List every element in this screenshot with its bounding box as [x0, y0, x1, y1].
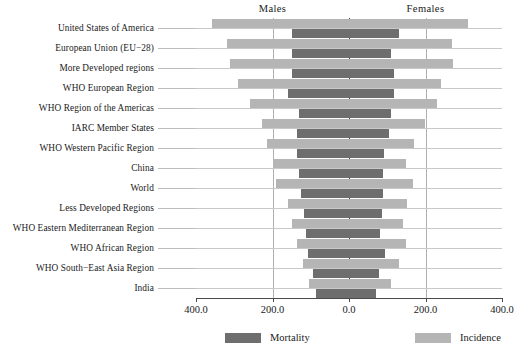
x-axis-tick-label: 400.0 — [184, 304, 208, 315]
bar-incidence-females — [349, 279, 391, 288]
bar-incidence-males — [288, 199, 349, 208]
bar-incidence-females — [349, 119, 425, 128]
label-leader-line — [158, 228, 196, 229]
bar-incidence-females — [349, 19, 468, 28]
bar-incidence-males — [292, 219, 349, 228]
bar-incidence-males — [227, 39, 349, 48]
bar-mortality-males — [304, 209, 349, 218]
category-label: Less Developed Regions — [59, 203, 154, 213]
bar-mortality-females — [349, 89, 394, 98]
bar-mortality-females — [349, 149, 384, 158]
legend-label: Incidence — [460, 332, 501, 343]
bar-mortality-males — [297, 129, 349, 138]
bar-mortality-males — [292, 29, 349, 38]
bar-mortality-females — [349, 209, 382, 218]
bar-incidence-females — [349, 259, 399, 268]
label-leader-line — [158, 128, 196, 129]
bar-mortality-males — [306, 229, 349, 238]
bar-mortality-females — [349, 109, 391, 118]
bar-mortality-females — [349, 249, 385, 258]
bar-mortality-females — [349, 29, 399, 38]
category-label: WHO Region of the Americas — [39, 103, 154, 113]
bar-incidence-males — [230, 59, 349, 68]
legend-item-incidence: Incidence — [415, 332, 501, 343]
category-label-column: United States of AmericaEuropean Union (… — [0, 0, 196, 356]
legend-label: Mortality — [270, 332, 310, 343]
label-leader-line — [158, 288, 196, 289]
label-leader-line — [158, 268, 196, 269]
bar-incidence-females — [349, 59, 453, 68]
bar-incidence-males — [276, 179, 349, 188]
bar-mortality-males — [292, 69, 349, 78]
bar-incidence-males — [250, 99, 349, 108]
x-axis-tick-label: 200.0 — [261, 304, 285, 315]
category-label: European Union (EU−28) — [55, 43, 154, 53]
bar-incidence-females — [349, 159, 406, 168]
bar-incidence-females — [349, 199, 407, 208]
bar-incidence-females — [349, 99, 437, 108]
bar-mortality-females — [349, 229, 380, 238]
bar-mortality-females — [349, 189, 383, 198]
bar-incidence-males — [303, 259, 349, 268]
x-axis-tick — [426, 298, 427, 302]
category-label: India — [134, 283, 154, 293]
legend-item-mortality: Mortality — [225, 332, 310, 343]
legend-swatch-incidence — [415, 333, 451, 343]
x-axis-tick — [349, 298, 350, 302]
category-label: United States of America — [58, 23, 154, 33]
bar-incidence-males — [309, 279, 349, 288]
group-header-left: Males — [259, 3, 287, 14]
x-axis-tick — [502, 298, 503, 302]
category-label: IARC Member States — [72, 123, 154, 133]
bar-incidence-males — [262, 119, 349, 128]
bar-mortality-females — [349, 69, 394, 78]
x-axis-tick-label: 400.0 — [490, 304, 514, 315]
x-axis-tick — [196, 298, 197, 302]
bar-mortality-females — [349, 49, 391, 58]
label-leader-line — [158, 188, 196, 189]
bar-incidence-males — [273, 159, 350, 168]
bar-mortality-males — [301, 189, 349, 198]
bar-incidence-males — [267, 139, 349, 148]
bar-incidence-males — [297, 239, 349, 248]
x-axis-tick-label: 200.0 — [414, 304, 438, 315]
category-label: WHO Eastern Mediterranean Region — [13, 223, 154, 233]
category-label: WHO South−East Asia Region — [36, 263, 154, 273]
bar-mortality-females — [349, 289, 376, 298]
chart-legend: MortalityIncidence — [0, 330, 529, 350]
chart-container: MalesFemales United States of AmericaEur… — [0, 0, 529, 356]
bar-incidence-males — [212, 19, 349, 28]
bar-mortality-females — [349, 169, 383, 178]
category-label: WHO African Region — [71, 243, 154, 253]
bar-mortality-males — [297, 149, 349, 158]
label-leader-line — [158, 208, 196, 209]
x-axis-tick-label: 0.0 — [342, 304, 355, 315]
bar-incidence-females — [349, 179, 413, 188]
label-leader-line — [158, 168, 196, 169]
group-header-right: Females — [407, 3, 445, 14]
bar-mortality-males — [313, 269, 349, 278]
label-leader-line — [158, 248, 196, 249]
bar-incidence-females — [349, 39, 452, 48]
bar-mortality-males — [288, 89, 349, 98]
bar-incidence-females — [349, 239, 406, 248]
category-label: China — [131, 163, 154, 173]
label-leader-line — [158, 48, 196, 49]
bar-mortality-males — [308, 249, 349, 258]
category-label: WHO European Region — [63, 83, 154, 93]
category-label: More Developed regions — [59, 63, 154, 73]
category-label: WHO Western Pacific Region — [39, 143, 154, 153]
x-axis-tick — [273, 298, 274, 302]
bar-incidence-females — [349, 219, 403, 228]
x-axis-ticks: 400.0200.00.0200.0400.0 — [196, 298, 502, 320]
bar-mortality-males — [299, 169, 349, 178]
bar-incidence-females — [349, 79, 441, 88]
label-leader-line — [158, 28, 196, 29]
label-leader-line — [158, 88, 196, 89]
label-leader-line — [158, 68, 196, 69]
legend-swatch-mortality — [225, 333, 261, 343]
plot-area — [196, 18, 502, 298]
bar-incidence-males — [238, 79, 349, 88]
bar-mortality-males — [316, 289, 349, 298]
label-leader-line — [158, 148, 196, 149]
